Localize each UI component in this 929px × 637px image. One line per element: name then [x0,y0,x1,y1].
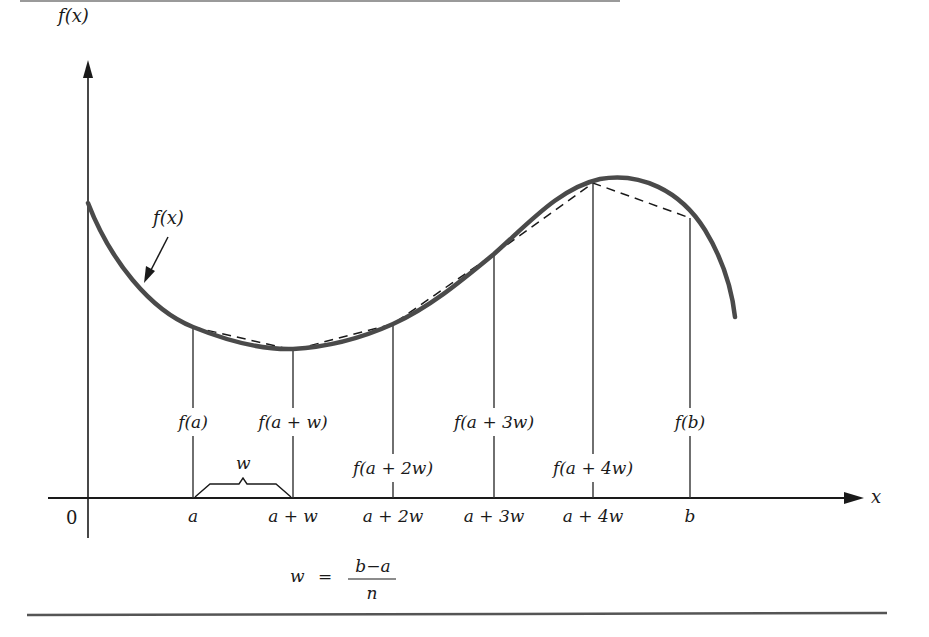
x-tick-b: b [685,506,696,526]
ordinate-label-f-a-plus-w: f(a + w) [256,412,327,432]
ordinate-label-f-a-plus-3w: f(a + 3w) [452,412,534,432]
ordinates [193,183,690,498]
ordinate-label-f-a: f(a) [176,412,208,432]
ordinate-labels: f(a) f(a + w) f(a + 2w) f(a + 3w) f(a + … [176,412,705,478]
y-axis-arrow-icon [83,60,93,78]
y-axis-label: f(x) [56,5,89,26]
bottom-rule [27,613,887,615]
formula-equals: = [318,566,332,586]
x-tick-a-plus-2w: a + 2w [363,506,424,526]
width-formula: w = b−a n [290,556,396,603]
origin-label: 0 [66,507,77,528]
x-tick-a: a [188,506,198,526]
curve-pointer-line [150,237,168,272]
x-tick-labels: a a + w a + 2w a + 3w a + 4w b [188,506,696,526]
x-axis-label: x [871,486,881,507]
ordinate-label-f-a-plus-2w: f(a + 2w) [351,458,433,478]
ordinate-label-f-b: f(b) [673,412,705,432]
formula-lhs: w [290,566,305,586]
curve-pointer-arrow-icon [144,266,155,283]
x-tick-a-plus-3w: a + 3w [464,506,525,526]
function-curve [88,178,735,350]
width-brace [195,478,291,497]
trapezoid-chords [193,183,690,350]
width-label: w [236,453,251,473]
x-tick-a-plus-w: a + w [268,506,318,526]
formula-denominator: n [367,583,378,603]
x-axis-arrow-icon [844,492,864,504]
formula-numerator: b−a [355,556,390,576]
curve-label: f(x) [151,207,184,228]
ordinate-label-f-a-plus-4w: f(a + 4w) [551,458,633,478]
x-tick-a-plus-4w: a + 4w [563,506,624,526]
trapezoid-rule-diagram: f(x) f(x) x 0 w a a + w a + 2w a + 3w a … [0,0,929,637]
